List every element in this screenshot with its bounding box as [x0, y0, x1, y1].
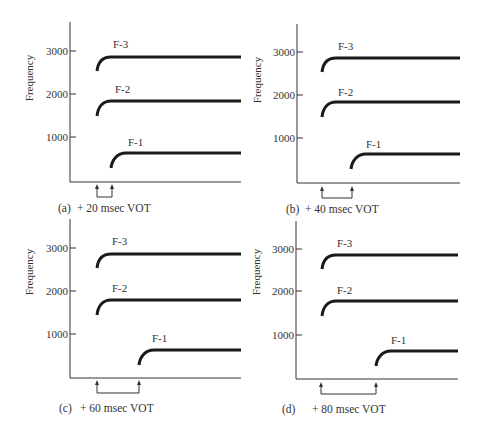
vot-interval-bracket: [320, 186, 354, 198]
panel-caption: + 80 msec VOT: [312, 403, 386, 415]
formant-f2: [322, 102, 460, 117]
y-axis-label: Frequency: [250, 248, 262, 295]
y-axis-label: Frequency: [23, 54, 35, 101]
tick-label-1000: 1000: [46, 328, 69, 340]
formant-f3: [322, 58, 460, 72]
y-axis-label: Frequency: [251, 56, 263, 103]
panel-d: 3000 2000 1000 Frequency F-3 F-2 F-1 (d)…: [250, 221, 458, 416]
formant-f1: [111, 153, 241, 168]
panel-b: 3000 2000 1000 Frequency F-3 F-2 F-1 (b)…: [251, 24, 460, 216]
tick-label-2000: 2000: [272, 285, 295, 297]
formant-f2: [97, 300, 241, 315]
panel-caption: + 40 msec VOT: [305, 203, 379, 215]
label-f3: F-3: [337, 237, 353, 249]
label-f1: F-1: [128, 136, 143, 148]
formant-f2: [322, 301, 458, 316]
formant-f3: [322, 255, 458, 269]
y-axis-label: Frequency: [23, 248, 35, 295]
panel-a: 3000 2000 1000 Frequency F-3 F-2 F-1 (a)…: [23, 22, 241, 215]
label-f3: F-3: [338, 40, 354, 52]
label-f3: F-3: [113, 38, 129, 50]
tick-label-3000: 3000: [46, 242, 69, 254]
formant-f1: [139, 350, 241, 365]
label-f2: F-2: [338, 86, 353, 98]
tick-label-3000: 3000: [272, 243, 295, 255]
label-f1: F-1: [391, 334, 406, 346]
tick-label-1000: 1000: [272, 329, 295, 341]
formant-f1: [376, 351, 458, 366]
panel-letter: (a): [58, 202, 71, 215]
label-f2: F-2: [112, 282, 127, 294]
label-f2: F-2: [337, 284, 352, 296]
vot-formant-figure: 3000 2000 1000 Frequency F-3 F-2 F-1 (a)…: [0, 0, 482, 434]
panel-c: 3000 2000 1000 Frequency F-3 F-2 F-1 (c)…: [23, 219, 241, 415]
tick-label-2000: 2000: [46, 285, 69, 297]
vot-interval-bracket: [95, 380, 141, 393]
tick-label-2000: 2000: [46, 88, 69, 100]
label-f1: F-1: [366, 138, 381, 150]
panel-letter: (b): [286, 203, 300, 216]
vot-interval-bracket: [319, 382, 378, 394]
panel-caption: + 60 msec VOT: [80, 402, 154, 414]
label-f2: F-2: [115, 83, 130, 95]
tick-label-1000: 1000: [46, 131, 69, 143]
formant-f1: [351, 154, 460, 169]
tick-label-3000: 3000: [46, 45, 69, 57]
panel-letter: (c): [59, 402, 72, 415]
tick-label-2000: 2000: [273, 89, 296, 101]
panel-letter: (d): [282, 403, 296, 416]
vot-interval-bracket: [95, 184, 114, 197]
label-f1: F-1: [152, 332, 167, 344]
label-f3: F-3: [112, 235, 128, 247]
formant-f2: [97, 101, 241, 116]
tick-label-1000: 1000: [273, 132, 296, 144]
formant-f3: [97, 254, 241, 268]
formant-f3: [97, 57, 241, 71]
tick-label-3000: 3000: [273, 46, 296, 58]
panel-caption: + 20 msec VOT: [77, 202, 151, 214]
